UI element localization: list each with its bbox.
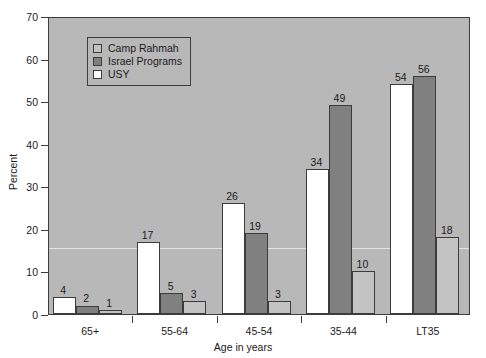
bar bbox=[99, 310, 122, 314]
x-tick-label: 35-44 bbox=[330, 325, 357, 337]
y-tick-label: 30 bbox=[26, 182, 38, 193]
bar bbox=[352, 271, 375, 314]
bar-value-label: 26 bbox=[226, 191, 238, 202]
plot-area: Camp RahmahIsrael ProgramsUSY bbox=[48, 17, 470, 315]
x-tick bbox=[301, 316, 302, 323]
bar bbox=[329, 105, 352, 314]
x-tick-label: 55-64 bbox=[161, 325, 188, 337]
y-tick bbox=[41, 315, 48, 316]
y-axis: Percent 010203040506070 bbox=[0, 0, 48, 358]
bar-value-label: 3 bbox=[191, 289, 197, 300]
legend-item-label: Israel Programs bbox=[108, 56, 182, 67]
bar-value-label: 17 bbox=[142, 230, 154, 241]
bar bbox=[436, 237, 459, 314]
legend-item: Camp Rahmah bbox=[93, 42, 182, 55]
bar bbox=[413, 76, 436, 314]
x-tick-label: 45-54 bbox=[246, 325, 273, 337]
y-tick-label: 40 bbox=[26, 139, 38, 150]
y-tick bbox=[41, 17, 48, 18]
y-tick bbox=[41, 145, 48, 146]
x-axis-title: Age in years bbox=[0, 341, 486, 353]
bar bbox=[76, 306, 99, 315]
bar bbox=[268, 301, 291, 314]
x-tick bbox=[386, 316, 387, 323]
bar-value-label: 4 bbox=[60, 285, 66, 296]
y-tick bbox=[41, 102, 48, 103]
legend-swatch-icon bbox=[93, 44, 102, 53]
bar bbox=[245, 233, 268, 314]
bar-value-label: 10 bbox=[357, 259, 369, 270]
bar-value-label: 3 bbox=[275, 289, 281, 300]
x-tick bbox=[132, 316, 133, 323]
y-tick-label: 70 bbox=[26, 12, 38, 23]
legend-item-label: USY bbox=[108, 69, 130, 80]
bar bbox=[390, 84, 413, 314]
y-tick-label: 10 bbox=[26, 267, 38, 278]
y-tick-label: 20 bbox=[26, 225, 38, 236]
bar bbox=[53, 297, 76, 314]
legend-item: Israel Programs bbox=[93, 55, 182, 68]
bar bbox=[160, 293, 183, 314]
y-tick-label: 60 bbox=[26, 54, 38, 65]
bar-value-label: 56 bbox=[418, 64, 430, 75]
y-tick-label: 50 bbox=[26, 97, 38, 108]
y-axis-title: Percent bbox=[7, 137, 19, 207]
y-tick bbox=[41, 272, 48, 273]
bar-value-label: 5 bbox=[168, 281, 174, 292]
bar bbox=[137, 242, 160, 314]
bar-value-label: 2 bbox=[83, 293, 89, 304]
legend-item-label: Camp Rahmah bbox=[108, 43, 179, 54]
y-tick bbox=[41, 187, 48, 188]
bar-value-label: 18 bbox=[441, 225, 453, 236]
bar-value-label: 49 bbox=[334, 93, 346, 104]
bar-value-label: 54 bbox=[395, 72, 407, 83]
x-tick bbox=[217, 316, 218, 323]
bar-chart: Percent 010203040506070 Camp RahmahIsrae… bbox=[0, 0, 486, 358]
legend: Camp RahmahIsrael ProgramsUSY bbox=[87, 37, 191, 86]
y-tick bbox=[41, 230, 48, 231]
y-tick-label: 0 bbox=[32, 310, 38, 321]
legend-swatch-icon bbox=[93, 57, 102, 66]
bar-value-label: 19 bbox=[249, 221, 261, 232]
legend-rows: Camp RahmahIsrael ProgramsUSY bbox=[93, 42, 182, 81]
x-tick-label: 65+ bbox=[81, 325, 99, 337]
legend-item: USY bbox=[93, 68, 182, 81]
bar bbox=[306, 169, 329, 314]
bar-value-label: 1 bbox=[106, 298, 112, 309]
legend-swatch-icon bbox=[93, 70, 102, 79]
bar bbox=[183, 301, 206, 314]
bar-value-label: 34 bbox=[311, 157, 323, 168]
bar bbox=[222, 203, 245, 314]
y-tick bbox=[41, 60, 48, 61]
x-tick-label: LT35 bbox=[416, 325, 439, 337]
